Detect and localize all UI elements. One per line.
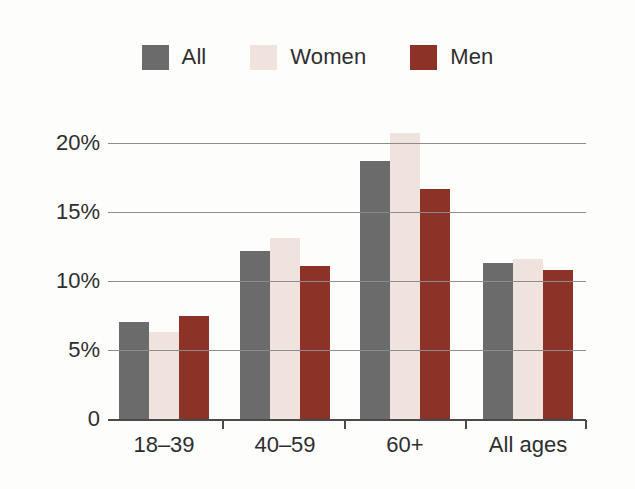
x-axis-category-label: 60+ [386,432,423,458]
y-axis-tick-label: 0 [8,406,100,432]
x-axis-tick [344,420,346,429]
bar-chart-figure: All Women Men 20%15%10%5%0 18–3940–5960+… [0,0,635,489]
x-axis-tick [465,420,467,429]
gridline [108,212,586,213]
x-axis-category-label: 40–59 [254,432,315,458]
plot-area [108,0,586,419]
bar-men-60+ [420,189,450,419]
y-axis-tick-label: 5% [8,337,100,363]
x-axis-category-label: 18–39 [133,432,194,458]
gridline [108,281,586,282]
bar-men-All-ages [543,270,573,419]
bar-all-40–59 [240,251,270,419]
x-axis-line [108,419,586,421]
x-axis-tick [585,420,587,429]
x-axis-category-label: All ages [489,432,567,458]
y-axis-labels: 20%15%10%5%0 [0,0,100,489]
bar-women-60+ [390,133,420,419]
bar-all-18–39 [119,322,149,419]
bar-women-18–39 [149,332,179,419]
x-axis-labels: 18–3940–5960+All ages [0,432,635,472]
y-axis-tick-label: 20% [8,130,100,156]
x-axis-tick [222,420,224,429]
gridline [108,350,586,351]
gridline [108,143,586,144]
bar-men-40–59 [300,266,330,419]
bar-all-60+ [360,161,390,419]
bar-women-All-ages [513,259,543,419]
bar-men-18–39 [179,316,209,420]
y-axis-tick-label: 10% [8,268,100,294]
bar-women-40–59 [270,238,300,419]
bar-all-All-ages [483,263,513,419]
y-axis-tick-label: 15% [8,199,100,225]
